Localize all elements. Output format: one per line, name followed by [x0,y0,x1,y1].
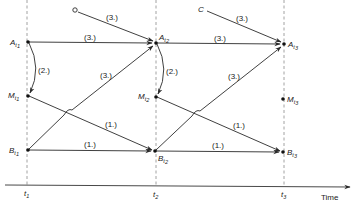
node-a-t2 [154,41,158,45]
edge-label-a-t1-a-t2: (3.) [84,33,96,42]
label-b-t3: Bt3 [287,148,298,159]
tick-t1: t1 [24,189,29,199]
node-b-t1 [26,148,30,152]
sources: C [73,5,204,14]
edge-b-t2-to-b-t3 [156,151,279,152]
edge-label-c-a-t3: (3.) [236,14,248,23]
node-a-t1 [26,40,30,44]
edge-a-t1-to-a-t2 [29,42,152,43]
tick-t3: t3 [281,190,287,200]
edge-label-m-t2-b-t3: (1.) [233,121,245,130]
edge-label-b-t2-b-t3: (1.) [212,141,224,150]
node-m-t1 [26,94,30,98]
time-axis-label: Time [321,193,339,202]
node-a-t3 [282,42,286,46]
edge-label-a-t1-m-t1: (2.) [38,66,50,75]
tick-t2: t2 [153,190,158,200]
time-guides [27,0,284,186]
node-b-t3 [281,150,285,154]
edge-a-t2-to-a-t3 [157,43,280,44]
open-circle-source [73,8,77,12]
edges: (3.) (3.) (3.) (3.) (2.) (2.) (3.) (3.) … [29,11,281,152]
edge-a-t2-to-m-t2 [157,44,164,94]
label-a-t3: At3 [287,40,299,51]
node-m-t2 [154,95,158,99]
source-c-label: C [198,5,204,14]
nodes: At1 Mt1 Bt1 At2 Mt2 Bt2 At3 Mt3 Bt3 [8,33,299,165]
edge-b-t1-to-a-t2 [29,46,153,149]
node-b-t2 [153,149,157,153]
edge-label-source-a-t2: (3.) [106,13,118,22]
edge-b-t2-to-a-t3 [156,47,281,150]
edge-b-t1-to-b-t2 [29,150,151,151]
label-a-t2: At2 [158,33,169,44]
label-a-t1: At1 [9,38,20,49]
edge-label-b-t1-a-t2: (3.) [100,71,112,80]
time-axis-line [5,185,350,187]
edge-a-t1-to-m-t1 [29,43,36,93]
label-m-t1: Mt1 [8,91,19,102]
label-b-t1: Bt1 [9,146,19,157]
time-axis: Time t1 t2 t3 [5,185,350,202]
edge-label-a-t2-a-t3: (3.) [214,34,226,43]
label-m-t3: Mt3 [287,95,299,106]
edge-label-b-t2-a-t3: (3.) [228,72,240,81]
label-m-t2: Mt2 [138,92,149,103]
label-b-t2: Bt2 [158,154,168,165]
edge-label-b-t1-b-t2: (1.) [84,140,96,149]
edge-label-m-t1-b-t2: (1.) [105,120,117,129]
node-m-t3 [281,97,285,101]
edge-label-a-t2-m-t2: (2.) [166,67,178,76]
diagram-canvas: Time t1 t2 t3 (3.) (3.) (3.) (3.) (2.) (… [0,0,355,203]
